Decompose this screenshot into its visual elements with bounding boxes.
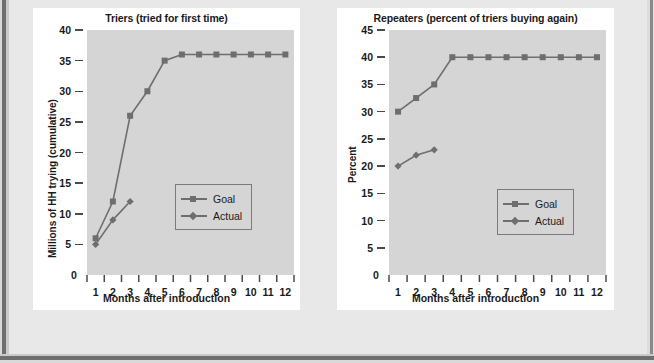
legend-diamond-marker-icon — [503, 216, 529, 226]
data-point-marker-goal — [231, 52, 237, 58]
x-axis-title-repeaters: Months after introduction — [337, 292, 614, 304]
data-point-marker-goal — [395, 109, 401, 115]
y-axis-zero-label-triers: 0 — [71, 269, 77, 281]
data-point-marker-goal — [558, 54, 564, 60]
data-point-marker-goal — [127, 113, 133, 119]
y-axis-tick-label: 15 — [361, 187, 373, 199]
plot-area-triers — [87, 30, 294, 275]
y-axis-tick-mark — [75, 213, 83, 215]
legend-label-goal: Goal — [213, 193, 235, 205]
y-axis-tick: 20 — [361, 160, 385, 172]
y-axis-tick-mark — [75, 91, 83, 93]
legend-label-actual: Actual — [535, 215, 564, 227]
y-axis-tick-label: 40 — [361, 51, 373, 63]
data-point-marker-goal — [522, 54, 528, 60]
y-axis-title-repeaters: Percent — [347, 146, 358, 183]
y-axis-tick: 15 — [361, 187, 385, 199]
data-point-marker-goal — [540, 54, 546, 60]
legend-triers: Goal Actual — [175, 184, 252, 230]
y-axis-tick-mark — [377, 138, 385, 140]
y-axis-tick-label: 25 — [59, 116, 71, 128]
legend-label-actual: Actual — [213, 210, 242, 222]
data-point-marker-goal — [431, 81, 437, 87]
y-axis-tick: 45 — [361, 24, 385, 36]
y-axis-tick: 10 — [59, 208, 83, 220]
y-axis-tick-label: 30 — [361, 106, 373, 118]
legend-square-marker-icon — [503, 199, 529, 209]
chart-title-triers: Triers (tried for first time) — [33, 12, 300, 24]
y-axis-tick-label: 40 — [59, 24, 71, 36]
y-axis-tick-label: 35 — [361, 78, 373, 90]
figure-page: Triers (tried for first time) 5101520253… — [0, 0, 654, 363]
y-axis-tick: 15 — [59, 177, 83, 189]
data-point-marker-goal — [248, 52, 254, 58]
legend-label-goal: Goal — [535, 198, 557, 210]
y-axis-tick-mark — [377, 220, 385, 222]
data-point-marker-goal — [282, 52, 288, 58]
page-frame-left-rule — [0, 0, 9, 363]
y-axis-tick-mark — [75, 182, 83, 184]
y-axis-zero-label-repeaters: 0 — [373, 269, 379, 281]
series-layer-triers — [87, 30, 294, 275]
data-point-marker-goal — [162, 58, 168, 64]
data-point-marker-actual — [431, 146, 438, 153]
data-point-marker-goal — [576, 54, 582, 60]
legend-item-actual: Actual — [181, 207, 242, 224]
legend-repeaters: Goal Actual — [497, 189, 574, 235]
y-axis-tick-mark — [75, 121, 83, 123]
data-point-marker-goal — [449, 54, 455, 60]
y-axis-title-triers: Millions of HH trying (cumulative) — [47, 99, 58, 258]
data-point-marker-goal — [144, 88, 150, 94]
data-point-marker-goal — [594, 54, 600, 60]
y-axis-tick: 5 — [367, 242, 385, 254]
chart-title-repeaters: Repeaters (percent of triers buying agai… — [337, 12, 614, 24]
y-axis-tick-label: 5 — [367, 242, 373, 254]
y-axis-tick-mark — [377, 165, 385, 167]
y-axis-tick: 35 — [361, 78, 385, 90]
data-point-marker-goal — [213, 52, 219, 58]
y-axis-tick-mark — [377, 111, 385, 113]
data-point-marker-goal — [265, 52, 271, 58]
y-axis-tick-mark — [75, 244, 83, 246]
data-point-marker-goal — [485, 54, 491, 60]
data-point-marker-goal — [504, 54, 510, 60]
data-point-marker-actual — [394, 163, 401, 170]
y-axis-tick-label: 20 — [59, 147, 71, 159]
page-frame-right-rule — [647, 0, 654, 363]
y-axis-tick-mark — [377, 247, 385, 249]
legend-item-actual: Actual — [503, 212, 564, 229]
data-point-marker-actual — [413, 152, 420, 159]
y-axis-tick-label: 15 — [59, 177, 71, 189]
page-frame-bottom-rule — [0, 354, 654, 363]
legend-item-goal: Goal — [503, 195, 564, 212]
y-axis-tick-label: 30 — [59, 85, 71, 97]
y-axis-tick: 40 — [361, 51, 385, 63]
data-point-marker-goal — [413, 95, 419, 101]
data-point-marker-goal — [179, 52, 185, 58]
x-axis-title-triers: Months after introduction — [33, 292, 300, 304]
y-axis-tick-mark — [377, 56, 385, 58]
y-axis-tick-label: 10 — [361, 215, 373, 227]
y-axis-tick-mark — [75, 60, 83, 62]
data-point-marker-goal — [196, 52, 202, 58]
y-axis-repeaters: 51015202530354045 — [337, 30, 385, 275]
chart-card-triers: Triers (tried for first time) 5101520253… — [33, 8, 300, 310]
y-axis-tick-label: 35 — [59, 55, 71, 67]
chart-card-repeaters: Repeaters (percent of triers buying agai… — [337, 8, 614, 310]
y-axis-tick-label: 20 — [361, 160, 373, 172]
y-axis-tick-label: 10 — [59, 208, 71, 220]
y-axis-tick: 30 — [59, 85, 83, 97]
y-axis-tick: 30 — [361, 106, 385, 118]
y-axis-tick-label: 5 — [65, 238, 71, 250]
y-axis-tick-label: 45 — [361, 24, 373, 36]
y-axis-tick-mark — [75, 29, 83, 31]
series-layer-repeaters — [389, 30, 606, 275]
data-point-marker-goal — [467, 54, 473, 60]
legend-square-marker-icon — [181, 194, 207, 204]
y-axis-tick: 25 — [59, 116, 83, 128]
charts-container: Triers (tried for first time) 5101520253… — [9, 0, 647, 354]
plot-area-repeaters — [389, 30, 606, 275]
y-axis-tick-mark — [377, 29, 385, 31]
legend-diamond-marker-icon — [181, 211, 207, 221]
y-axis-tick-mark — [75, 152, 83, 154]
